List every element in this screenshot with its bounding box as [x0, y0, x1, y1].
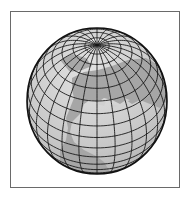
globe-icon [0, 0, 186, 200]
